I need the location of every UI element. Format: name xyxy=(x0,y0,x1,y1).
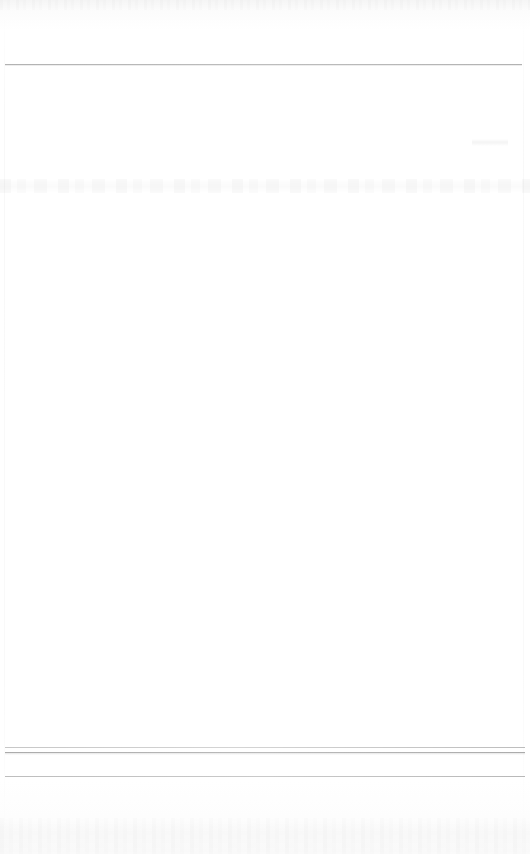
page-footer xyxy=(5,778,523,820)
scan-artifact-bottom xyxy=(0,818,530,854)
footer-divider-rule-lower xyxy=(5,776,525,777)
footer-divider-rule-middle xyxy=(5,752,525,753)
scan-artifact-top xyxy=(0,0,530,10)
page-body xyxy=(5,65,523,747)
scanned-page xyxy=(0,0,530,854)
page-edge-right xyxy=(523,10,524,840)
footer-divider-rule-upper xyxy=(5,747,525,748)
page-header xyxy=(5,10,523,64)
